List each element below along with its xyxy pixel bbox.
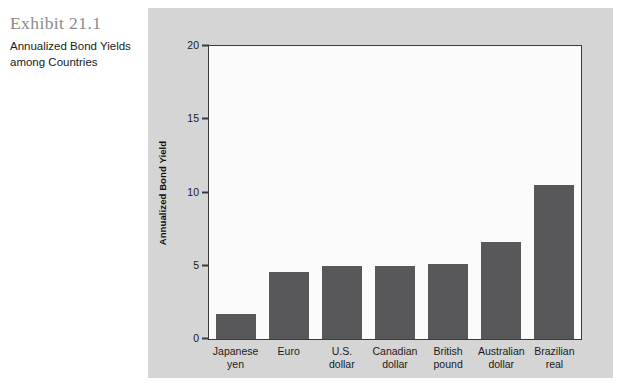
y-tick-label: 5 xyxy=(193,258,199,271)
x-axis-label-line: dollar xyxy=(373,358,418,371)
bar[interactable] xyxy=(322,266,362,339)
x-axis-label-line: Australian xyxy=(478,345,525,358)
x-axis-label: Japaneseyen xyxy=(213,345,259,371)
x-axis-label-line: real xyxy=(534,358,574,371)
x-axis-label: U.S.dollar xyxy=(329,345,355,371)
exhibit-description: Annualized Bond Yields among Countries xyxy=(10,39,140,70)
exhibit-number: Exhibit 21.1 xyxy=(10,14,140,33)
bar-group: Brazilianreal xyxy=(528,46,581,339)
y-axis-title: Annualized Bond Yield xyxy=(157,140,168,245)
y-tick-mark xyxy=(202,191,209,193)
exhibit-caption: Exhibit 21.1 Annualized Bond Yields amon… xyxy=(10,14,140,70)
x-axis-label: Britishpound xyxy=(434,345,463,371)
x-axis-label: Euro xyxy=(278,345,300,358)
plot-area: 05101520JapaneseyenEuroU.S.dollarCanadia… xyxy=(209,46,581,339)
x-axis-label-line: U.S. xyxy=(329,345,355,358)
x-axis-label: Australiandollar xyxy=(478,345,525,371)
bar-group: U.S.dollar xyxy=(315,46,368,339)
y-tick-label: 0 xyxy=(193,332,199,345)
x-axis-label-line: Japanese xyxy=(213,345,259,358)
x-axis-label-line: dollar xyxy=(329,358,355,371)
x-axis-label-line: yen xyxy=(213,358,259,371)
bar-group: Australiandollar xyxy=(475,46,528,339)
x-axis-label-line: Brazilian xyxy=(534,345,574,358)
y-tick-label: 10 xyxy=(187,185,199,198)
x-axis-label-line: pound xyxy=(434,358,463,371)
bar[interactable] xyxy=(216,314,256,339)
y-tick-label: 20 xyxy=(187,39,199,52)
y-tick-mark xyxy=(202,45,209,47)
y-tick-mark xyxy=(202,118,209,120)
bar[interactable] xyxy=(428,264,468,339)
bar[interactable] xyxy=(481,242,521,339)
chart-panel: Annualized Bond Yield 05101520Japaneseye… xyxy=(148,8,613,378)
bar-group: Canadiandollar xyxy=(368,46,421,339)
x-axis-label: Brazilianreal xyxy=(534,345,574,371)
y-tick-mark xyxy=(202,338,209,340)
x-axis-label-line: dollar xyxy=(478,358,525,371)
y-tick-label: 15 xyxy=(187,112,199,125)
bar[interactable] xyxy=(269,272,309,339)
y-tick-mark xyxy=(202,264,209,266)
bar-group: Britishpound xyxy=(422,46,475,339)
bar-group: Euro xyxy=(262,46,315,339)
plot-frame: Annualized Bond Yield 05101520Japaneseye… xyxy=(208,45,582,340)
x-axis-label-line: Euro xyxy=(278,345,300,358)
x-axis-label-line: Canadian xyxy=(373,345,418,358)
bar[interactable] xyxy=(375,266,415,339)
x-axis-label: Canadiandollar xyxy=(373,345,418,371)
bar-group: Japaneseyen xyxy=(209,46,262,339)
bar[interactable] xyxy=(534,185,574,339)
x-axis-label-line: British xyxy=(434,345,463,358)
